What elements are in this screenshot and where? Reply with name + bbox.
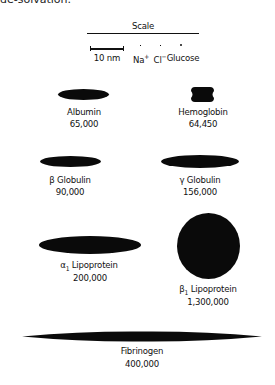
cropped-header-text: de-solvation.: [0, 0, 71, 6]
gamma-globulin-weight: 156,000: [183, 186, 217, 197]
albumin-shape: [58, 89, 109, 100]
scale-bar-label: 10 nm: [94, 52, 120, 63]
gamma-globulin-shape: [161, 155, 239, 168]
albumin-name: Albumin: [67, 106, 101, 117]
fibrinogen-shape: [22, 327, 262, 338]
beta-globulin-shape: [40, 156, 101, 167]
beta1-lipoprotein-shape: [177, 213, 240, 279]
alpha1-lipoprotein-shape: [39, 236, 141, 254]
scale-title: Scale: [132, 20, 154, 31]
beta-globulin-weight: 90,000: [56, 186, 85, 197]
glucose-dot: [180, 44, 182, 46]
scale-bar-10nm: [90, 48, 124, 50]
hemoglobin-name: Hemoglobin: [178, 106, 228, 117]
cl-ion-label: Cl−: [154, 52, 167, 65]
fibrinogen-name: Fibrinogen: [121, 345, 164, 356]
na-ion-dot: [140, 45, 141, 46]
beta1-lipoprotein-weight: 1,300,000: [187, 296, 229, 307]
scale-rule: [87, 33, 199, 34]
na-ion-label: Na+: [133, 52, 149, 65]
fibrinogen-weight: 400,000: [125, 358, 159, 369]
alpha1-lipoprotein-weight: 200,000: [73, 272, 107, 283]
cl-ion-dot: [160, 45, 161, 46]
hemoglobin-shape: [191, 87, 214, 102]
glucose-label: Glucose: [167, 52, 200, 63]
beta-globulin-name: β Globulin: [49, 174, 90, 185]
albumin-weight: 65,000: [70, 118, 99, 129]
gamma-globulin-name: γ Globulin: [179, 174, 220, 185]
hemoglobin-weight: 64,450: [189, 118, 218, 129]
